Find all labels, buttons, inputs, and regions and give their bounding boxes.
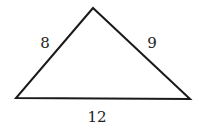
side-label-left: 8 xyxy=(40,34,50,52)
side-label-base: 12 xyxy=(87,108,106,126)
side-label-right: 9 xyxy=(147,34,157,52)
triangle-shape xyxy=(16,8,190,99)
triangle-diagram: 8 9 12 xyxy=(0,0,201,127)
